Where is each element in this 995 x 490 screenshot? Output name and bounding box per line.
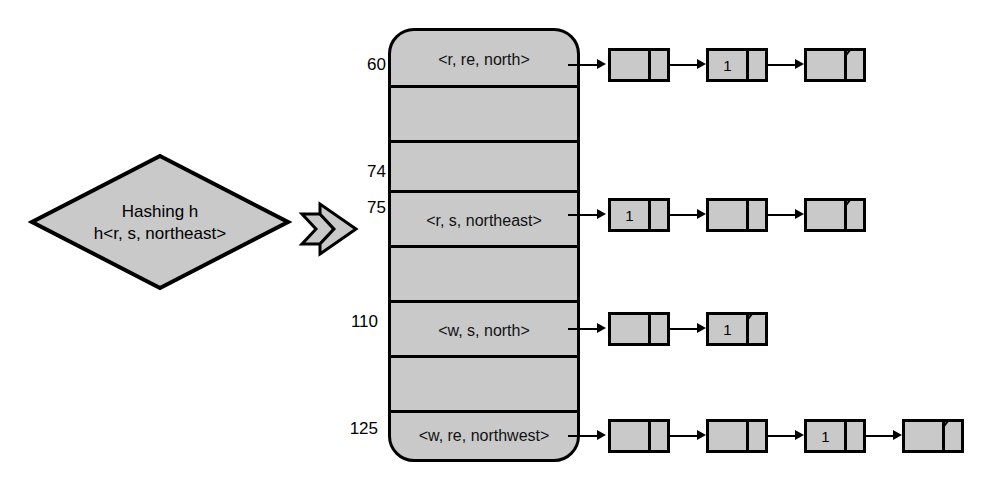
chain-arrow (768, 63, 804, 67)
node-value: 1 (709, 51, 749, 79)
node-value (709, 422, 749, 450)
list-node[interactable] (608, 312, 670, 346)
chain-arrow (866, 434, 902, 438)
chain-arrow (768, 213, 804, 217)
null-pointer-icon (847, 51, 863, 79)
index-label-74: 74 (344, 162, 386, 182)
list-node-null[interactable] (804, 48, 866, 82)
index-label-60: 60 (344, 55, 386, 75)
index-label-75: 75 (344, 198, 386, 218)
list-node[interactable] (608, 419, 670, 453)
hash-table: <r, re, north> <r, s, northeast> <w, s, … (388, 28, 580, 462)
list-node[interactable]: 1 (706, 48, 768, 82)
hash-slot[interactable]: <w, re, northwest> (391, 413, 577, 459)
node-pointer (651, 201, 667, 229)
node-value: 1 (807, 422, 847, 450)
null-pointer-icon (847, 201, 863, 229)
chain-row: 1 (568, 419, 988, 463)
node-value (807, 51, 847, 79)
list-node[interactable]: 1 (804, 419, 866, 453)
chain-arrow (670, 327, 706, 331)
chain-arrow (670, 63, 706, 67)
index-label-110: 110 (336, 312, 378, 332)
node-pointer (651, 51, 667, 79)
node-value (611, 315, 651, 343)
node-value (709, 201, 749, 229)
node-value (611, 51, 651, 79)
hash-slot[interactable] (391, 358, 577, 413)
list-node[interactable] (706, 419, 768, 453)
null-pointer-icon (945, 422, 961, 450)
node-value (905, 422, 945, 450)
list-node-null[interactable]: 1 (706, 312, 768, 346)
list-node-null[interactable] (804, 198, 866, 232)
hash-slot[interactable]: <r, re, north> (391, 31, 577, 88)
node-value (611, 422, 651, 450)
hash-slot[interactable] (391, 248, 577, 303)
hash-slot[interactable] (391, 143, 577, 193)
chain-arrow (670, 213, 706, 217)
chain-arrow (568, 63, 606, 67)
hash-slot[interactable]: <r, s, northeast> (391, 193, 577, 248)
node-pointer (847, 422, 863, 450)
node-pointer (749, 201, 765, 229)
index-label-125: 125 (336, 419, 378, 439)
list-node[interactable]: 1 (608, 198, 670, 232)
chain-row: 1 (568, 48, 978, 92)
node-value (807, 201, 847, 229)
node-pointer (749, 51, 765, 79)
node-pointer (749, 422, 765, 450)
null-pointer-icon (749, 315, 765, 343)
chain-row: 1 (568, 312, 978, 356)
hash-slot[interactable] (391, 88, 577, 143)
chain-arrow (768, 434, 804, 438)
diagram-canvas: Hashing h h<r, s, northeast> <r, re, nor… (0, 0, 995, 490)
chain-arrow (568, 327, 606, 331)
node-pointer (651, 422, 667, 450)
node-pointer (651, 315, 667, 343)
hash-slot[interactable]: <w, s, north> (391, 303, 577, 358)
chain-arrow (568, 434, 606, 438)
node-value: 1 (611, 201, 651, 229)
list-node[interactable] (706, 198, 768, 232)
hashing-diamond: Hashing h h<r, s, northeast> (28, 152, 292, 292)
diamond-shape (28, 152, 292, 292)
chain-arrow (670, 434, 706, 438)
list-node-null[interactable] (902, 419, 964, 453)
node-value: 1 (709, 315, 749, 343)
list-node[interactable] (608, 48, 670, 82)
chain-row: 1 (568, 198, 978, 242)
chain-arrow (568, 213, 606, 217)
